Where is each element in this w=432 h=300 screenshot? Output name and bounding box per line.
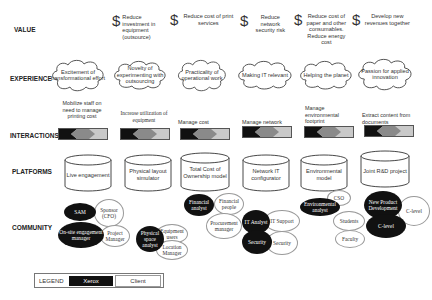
experience-cloud: Making IT relevant xyxy=(236,60,294,90)
xerox-bubble: Environmental analyst xyxy=(300,198,340,216)
row-label-experience: EXPERIENCE xyxy=(10,75,52,82)
client-bubble: Procurement manager xyxy=(206,213,242,239)
platform-cylinder: Joint R&D project xyxy=(360,150,410,188)
interaction-bar xyxy=(304,126,354,138)
legend-label: LEGEND xyxy=(35,278,69,284)
platform-cylinder: Physical layout simulator xyxy=(124,154,172,192)
interaction-bar xyxy=(180,128,230,140)
experience-cloud: Excitement of transformational effort xyxy=(50,58,106,92)
row-label-platforms: PLATFORMS xyxy=(12,168,52,175)
interaction-bar xyxy=(364,125,414,137)
value-item: $ Reduce cost of print services xyxy=(170,13,236,26)
dollar-icon: $ xyxy=(240,14,248,27)
interaction-bar xyxy=(120,128,170,140)
platform-cylinder: Environmental model xyxy=(300,154,348,192)
client-bubble: Sponsor (CFO) xyxy=(94,199,124,227)
experience-cloud: Novelty of experimenting with outsourcin… xyxy=(112,60,168,90)
value-item: $ Reduce network security risk xyxy=(240,14,290,34)
row-label-interactions: INTERACTIONS xyxy=(10,132,59,139)
legend-client-swatch: Client xyxy=(115,275,161,287)
dollar-icon: $ xyxy=(294,13,302,26)
value-item: $ Reduce investment in equipment (outsou… xyxy=(112,14,158,40)
value-item: $ Develop new revenues together xyxy=(352,13,412,26)
row-label-community: COMMUNITY xyxy=(12,224,52,231)
dollar-icon: $ xyxy=(170,13,178,26)
dollar-icon: $ xyxy=(352,13,360,26)
interaction-label: Manage network xyxy=(242,119,292,126)
dollar-icon: $ xyxy=(112,14,120,27)
xerox-bubble: Security xyxy=(242,230,272,254)
experience-cloud: Practicality of operational work xyxy=(176,58,228,92)
client-bubble: Faculty xyxy=(335,230,365,248)
platform-cylinder: Live engagement xyxy=(64,154,112,192)
xerox-bubble: C-level xyxy=(366,214,406,238)
client-bubble: Financial people xyxy=(214,193,244,215)
value-item: $ Reduce cost of paper and other consuma… xyxy=(294,13,348,46)
interaction-label: Manage environmental footprint xyxy=(305,105,351,125)
legend-xerox-swatch: Xerox xyxy=(69,276,113,286)
legend: LEGEND Xerox Client xyxy=(34,273,164,288)
client-bubble: Project Manager xyxy=(100,225,130,247)
interaction-label: Extract content from documents xyxy=(362,112,414,125)
platform-cylinder: Network IT configurator xyxy=(242,154,290,192)
interaction-label: Manage cost xyxy=(178,119,224,126)
interaction-label: Mobilize staff on need to manage printin… xyxy=(56,100,108,120)
interaction-bar xyxy=(58,128,108,140)
interaction-bar xyxy=(242,126,292,138)
xerox-bubble: Physical space analyst xyxy=(136,226,164,252)
xerox-bubble: On-site engagement manager xyxy=(58,222,104,248)
client-bubble: Students xyxy=(333,211,365,231)
experience-cloud: Passion for applied innovation xyxy=(356,57,414,91)
xerox-bubble: Financial analyst xyxy=(184,194,214,216)
row-label-value: VALUE xyxy=(14,26,36,33)
platform-cylinder: Total Cost of Ownership model xyxy=(180,152,230,192)
interaction-label: Increase utilization of equipment xyxy=(118,110,170,123)
experience-cloud: Helping the planet xyxy=(298,60,354,90)
xerox-bubble: SAM xyxy=(64,203,96,221)
